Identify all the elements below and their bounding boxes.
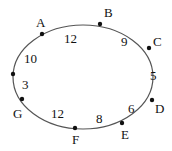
- segment-length-label: 6: [128, 101, 135, 116]
- ellipse-diagram: ABCDEFG 12910536128: [0, 0, 172, 151]
- point-A: [40, 32, 44, 36]
- point-label-G: G: [13, 106, 22, 121]
- point-label-F: F: [72, 132, 79, 147]
- point-label-C: C: [153, 34, 162, 49]
- diagram-canvas: ABCDEFG 12910536128: [0, 0, 172, 151]
- points-group: ABCDEFG: [11, 5, 165, 147]
- segment-length-label: 12: [51, 106, 64, 121]
- point-label-A: A: [36, 15, 46, 30]
- point-D: [150, 98, 154, 102]
- segment-labels-group: 12910536128: [22, 31, 157, 126]
- point-C: [147, 46, 151, 50]
- point-label-D: D: [155, 101, 164, 116]
- point-B: [98, 22, 102, 26]
- point-G: [20, 97, 24, 101]
- segment-length-label: 5: [150, 68, 157, 83]
- segment-length-label: 10: [24, 51, 37, 66]
- segment-length-label: 12: [64, 31, 77, 46]
- segment-length-label: 8: [96, 111, 103, 126]
- point-F: [73, 126, 77, 130]
- point-label-E: E: [121, 127, 129, 142]
- segment-length-label: 3: [22, 77, 29, 92]
- point-E: [120, 121, 124, 125]
- point-unlabeled: [11, 72, 15, 76]
- segment-length-label: 9: [121, 34, 128, 49]
- point-label-B: B: [104, 5, 113, 20]
